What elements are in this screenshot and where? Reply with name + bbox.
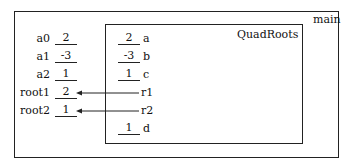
arrow-r1-to-root1: [76, 91, 139, 96]
arrow-r2-to-root2: [76, 109, 139, 114]
reference-arrows: [0, 0, 352, 162]
